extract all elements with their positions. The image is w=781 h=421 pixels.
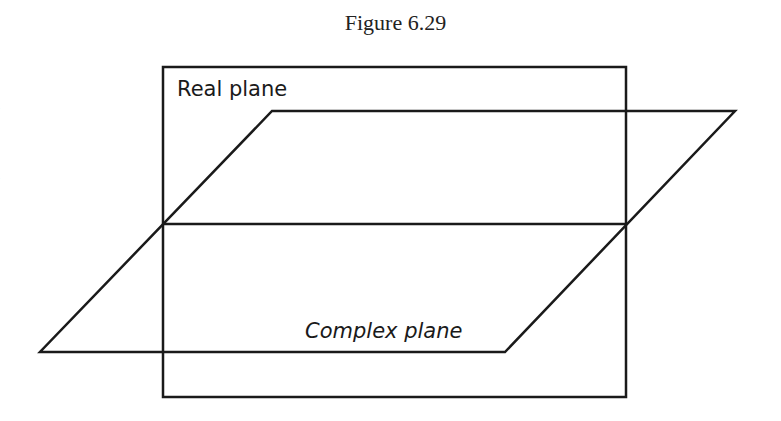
real-plane-rectangle bbox=[163, 67, 626, 397]
real-plane-label: Real plane bbox=[177, 77, 287, 101]
complex-plane-label: Complex plane bbox=[305, 319, 462, 343]
planes-diagram: Real plane Complex plane bbox=[0, 0, 781, 421]
complex-plane-parallelogram bbox=[40, 111, 735, 352]
